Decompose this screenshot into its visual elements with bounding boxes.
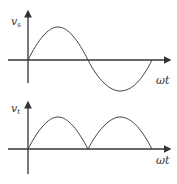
top-plot — [8, 11, 170, 91]
sine-curve — [28, 27, 152, 91]
top-y-label: vs — [11, 16, 21, 29]
waveform-diagrams — [0, 0, 177, 184]
rectified-curve — [28, 117, 152, 149]
bottom-plot — [8, 102, 170, 174]
top-x-label: ωt — [156, 75, 169, 86]
bottom-x-label: ωt — [156, 155, 169, 166]
bottom-y-label: vt — [11, 103, 20, 116]
